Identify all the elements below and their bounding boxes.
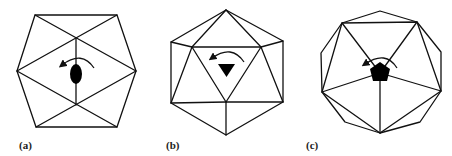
panel-a-diagram [17, 15, 136, 127]
two-fold-axis-marker-icon [70, 64, 82, 84]
panel-c-diagram [321, 11, 441, 133]
panel-b-label: (b) [166, 139, 179, 151]
three-fold-axis-marker-icon [218, 64, 235, 77]
panel-b-diagram [171, 10, 283, 135]
figure-canvas [0, 0, 452, 156]
rotation-arrow-icon [212, 52, 244, 62]
panel-a-label: (a) [19, 139, 32, 151]
panel-c-label: (c) [306, 139, 318, 151]
